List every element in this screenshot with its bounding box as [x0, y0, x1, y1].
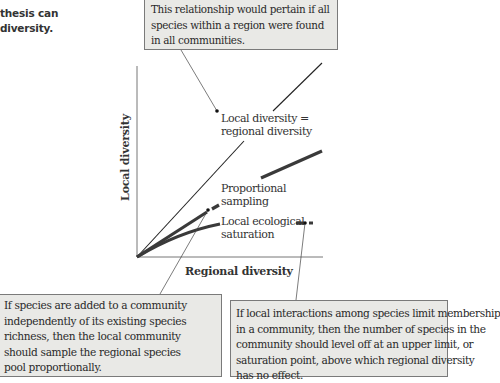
label-line: Local diversity = — [221, 112, 312, 125]
callout-line: richness, then the local community — [4, 329, 217, 345]
label-line: Local ecological — [221, 215, 305, 228]
x-axis-label: Regional diversity — [185, 265, 293, 278]
label-line: saturation — [221, 228, 305, 241]
y-axis-label: Local diversity — [119, 103, 132, 213]
callout-line: in all communities. — [151, 33, 331, 49]
bottom-left-callout-dot — [206, 208, 210, 212]
callout-line: community should level off at an upper l… — [236, 337, 442, 353]
bottom-left-callout-leader — [160, 210, 208, 294]
callout-line: independently of its existing species — [4, 314, 217, 330]
top-callout-leader — [181, 50, 217, 111]
label-local-saturation: Local ecological saturation — [221, 215, 305, 241]
label-proportional-sampling: Proportional sampling — [221, 182, 286, 208]
callout-line: saturation point, above which regional d… — [236, 353, 442, 369]
label-line: Proportional — [221, 182, 286, 195]
label-line: regional diversity — [221, 125, 312, 138]
line-equal-diversity-upper — [273, 63, 322, 111]
callout-line: pool proportionally. — [4, 360, 217, 376]
callout-line: species within a region were found — [151, 18, 331, 34]
line-proportional-upper — [261, 151, 322, 178]
callout-all-species-everywhere: This relationship would pertain if all s… — [144, 0, 338, 50]
callout-line: in a community, then the number of speci… — [236, 322, 442, 338]
callout-line: should sample the regional species — [4, 345, 217, 361]
callout-proportional-sampling: If species are added to a community inde… — [0, 294, 222, 377]
label-equal-diversity: Local diversity = regional diversity — [221, 112, 312, 138]
top-callout-dot — [215, 109, 219, 113]
callout-line: If local interactions among species limi… — [236, 306, 442, 322]
line-proportional-mid — [212, 205, 219, 209]
callout-line: This relationship would pertain if all — [151, 2, 331, 18]
callout-line: has no effect. — [236, 368, 442, 383]
callout-line: If species are added to a community — [4, 298, 217, 314]
label-line: sampling — [221, 195, 286, 208]
callout-local-saturation: If local interactions among species limi… — [230, 300, 448, 377]
